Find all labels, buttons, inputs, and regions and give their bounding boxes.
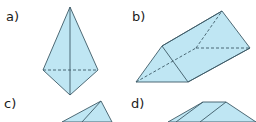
figures-canvas — [0, 0, 256, 122]
figure-d-prism — [168, 102, 256, 122]
figure-a-bipyramid — [43, 7, 98, 95]
figure-b-prism — [136, 11, 250, 82]
figure-c-pyramid — [62, 101, 112, 122]
